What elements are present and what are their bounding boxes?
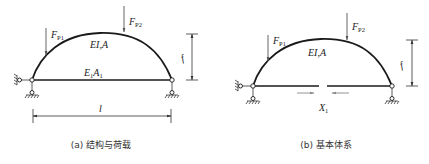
caption-a: (a) 结构与荷载	[71, 139, 131, 150]
left-support	[14, 74, 39, 98]
arch-stiffness-label: EI,A	[307, 47, 327, 58]
arch-stiffness-label: EI,A	[89, 39, 109, 50]
redundant-label: X1	[318, 102, 328, 114]
right-hinge	[170, 78, 174, 82]
right-support	[385, 86, 399, 104]
right-support	[165, 80, 179, 98]
left-support	[235, 80, 260, 104]
caption-b: (b) 基本体系	[300, 139, 352, 150]
rise-dimension: f	[179, 34, 198, 80]
span-dimension: l	[33, 103, 171, 123]
span-label: l	[99, 103, 102, 114]
panel-b: FP1 FP2 EI,A X1 f (b) 基本体系	[235, 13, 418, 150]
left-hinge	[251, 84, 255, 88]
load-label-fp1: FP1	[50, 29, 64, 41]
right-hinge	[390, 84, 394, 88]
panel-a: FP1 FP2 EI,A E1A1 f l (a) 结构与荷载	[14, 6, 198, 150]
rise-dimension: f	[398, 40, 418, 86]
rise-label: f	[179, 52, 187, 64]
load-label-fp2: FP2	[128, 16, 142, 28]
tie-stiffness-label: E1A1	[83, 67, 103, 79]
load-label-fp2: FP2	[351, 21, 365, 33]
tied-arch-figure: FP1 FP2 EI,A E1A1 f l (a) 结构与荷载	[0, 0, 429, 164]
rise-label: f	[398, 59, 406, 71]
load-label-fp1: FP1	[272, 35, 286, 47]
left-hinge	[30, 78, 34, 82]
